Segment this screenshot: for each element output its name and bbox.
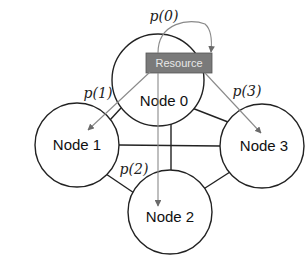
node-2: Node 2 bbox=[128, 170, 212, 254]
node-2-label: Node 2 bbox=[146, 208, 194, 225]
node-1: Node 1 bbox=[35, 103, 119, 187]
edge-0-1 bbox=[110, 108, 121, 120]
network-diagram: Node 0 Node 1 Node 2 Node 3 Resource p(0… bbox=[0, 0, 306, 260]
resource-box: Resource bbox=[146, 53, 212, 73]
node-3-label: Node 3 bbox=[240, 137, 288, 154]
node-1-label: Node 1 bbox=[53, 136, 101, 153]
p3-label: p(3) bbox=[233, 83, 262, 99]
edge-0-3 bbox=[192, 108, 228, 122]
edge-1-3 bbox=[119, 145, 220, 146]
p2-label: p(2) bbox=[120, 161, 149, 177]
resource-label: Resource bbox=[155, 57, 202, 69]
p0-label: p(0) bbox=[150, 8, 179, 24]
node-0-label: Node 0 bbox=[140, 92, 188, 109]
edge-2-3 bbox=[202, 172, 230, 190]
p1-label: p(1) bbox=[84, 85, 113, 101]
node-3: Node 3 bbox=[220, 104, 304, 188]
